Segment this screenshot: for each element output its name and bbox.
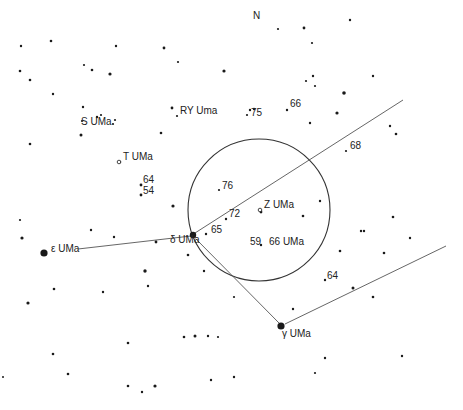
label-64-right: 64 xyxy=(327,271,338,281)
label-76: 76 xyxy=(222,181,233,191)
star xyxy=(203,270,205,272)
star xyxy=(140,194,143,197)
star xyxy=(29,79,32,82)
star xyxy=(324,279,326,281)
star xyxy=(83,64,85,66)
star xyxy=(19,70,22,73)
star xyxy=(52,93,54,95)
star xyxy=(314,85,316,87)
star xyxy=(312,75,314,77)
label-72: 72 xyxy=(229,209,240,219)
star xyxy=(171,204,174,207)
star xyxy=(29,143,32,146)
label-65: 65 xyxy=(211,225,222,235)
star xyxy=(82,106,84,108)
star xyxy=(292,308,294,310)
star xyxy=(395,133,398,136)
star xyxy=(90,229,92,231)
star xyxy=(20,236,23,239)
star xyxy=(205,233,207,235)
star xyxy=(140,184,143,187)
star xyxy=(112,123,114,125)
star xyxy=(222,69,225,72)
star xyxy=(160,132,163,135)
star xyxy=(392,216,395,219)
star xyxy=(53,288,56,291)
star xyxy=(349,19,351,21)
star xyxy=(91,69,94,72)
star xyxy=(143,269,146,272)
star xyxy=(277,28,279,30)
star xyxy=(383,252,386,255)
label-epsilon-uma: ε UMa xyxy=(51,244,79,254)
label-north: N xyxy=(253,11,260,21)
star-finder-chart: NS UMaRY Uma756668T UMa645476Z UMa7265δ … xyxy=(0,0,463,410)
star xyxy=(302,215,305,218)
star xyxy=(155,241,158,244)
star xyxy=(210,379,212,381)
star xyxy=(286,109,288,111)
star xyxy=(303,27,306,30)
star xyxy=(305,80,307,82)
label-ry-uma: RY Uma xyxy=(180,106,217,116)
star xyxy=(102,291,104,293)
label-66-uma: 66 UMa xyxy=(269,237,304,247)
star xyxy=(67,373,70,376)
star xyxy=(127,342,130,345)
star xyxy=(389,125,391,127)
star xyxy=(127,385,130,388)
star xyxy=(409,237,411,239)
star xyxy=(194,335,197,338)
star xyxy=(342,91,346,95)
label-z-uma: Z UMa xyxy=(264,200,294,210)
star xyxy=(80,134,83,137)
star xyxy=(372,75,374,77)
star xyxy=(217,336,219,338)
star xyxy=(225,218,227,220)
star xyxy=(309,122,311,124)
star xyxy=(401,355,403,357)
label-gamma-uma: γ UMa xyxy=(282,329,311,339)
label-t-uma: T UMa xyxy=(123,152,153,162)
star xyxy=(324,357,326,359)
gamma-ne-line xyxy=(285,246,446,324)
star xyxy=(141,391,143,393)
star xyxy=(319,200,321,202)
star xyxy=(19,219,21,221)
star xyxy=(26,301,29,304)
z-uma-variable-star xyxy=(258,208,262,212)
star xyxy=(187,254,190,257)
label-s-uma: S UMa xyxy=(81,117,112,127)
star xyxy=(207,335,209,337)
t-uma-variable-star xyxy=(117,160,121,164)
star xyxy=(311,42,313,44)
label-66-top: 66 xyxy=(290,99,301,109)
star xyxy=(233,376,235,378)
star xyxy=(2,376,4,378)
label-59: 59 xyxy=(250,237,261,247)
star xyxy=(108,72,111,75)
epsilon-uma-star xyxy=(40,249,47,256)
star xyxy=(246,114,248,116)
star xyxy=(163,47,166,50)
star xyxy=(352,287,355,290)
star xyxy=(114,119,116,121)
star xyxy=(360,230,362,232)
star xyxy=(153,384,156,387)
star xyxy=(115,45,117,47)
star xyxy=(314,372,316,374)
star xyxy=(171,107,174,110)
chart-canvas xyxy=(0,0,463,410)
star xyxy=(113,236,115,238)
label-54: 54 xyxy=(143,186,154,196)
star xyxy=(177,61,179,63)
label-75: 75 xyxy=(251,108,262,118)
star xyxy=(52,353,55,356)
star xyxy=(335,111,338,114)
star xyxy=(372,296,375,299)
label-64-left: 64 xyxy=(143,175,154,185)
star xyxy=(363,230,365,232)
star xyxy=(20,45,22,47)
label-delta-uma: δ UMa xyxy=(170,235,199,245)
star xyxy=(176,115,178,117)
